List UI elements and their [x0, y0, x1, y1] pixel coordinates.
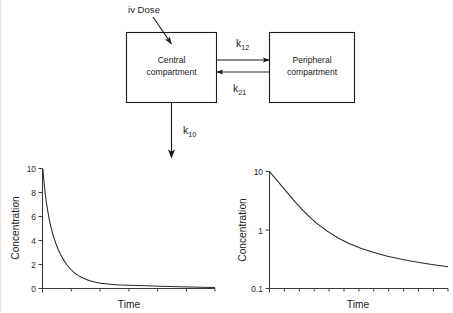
- k10-label: k10: [183, 124, 196, 139]
- linear-ytick-6: 6: [31, 212, 36, 222]
- linear-ytick-8: 8: [31, 188, 36, 198]
- semilog-plot-yticks: [266, 172, 270, 289]
- linear-plot-xlabel: Time: [118, 299, 141, 310]
- central-box-label-line2: compartment: [146, 67, 197, 77]
- figure-canvas: Central compartment Peripheral compartme…: [1, 0, 453, 313]
- linear-plot-curve: [43, 169, 215, 288]
- peripheral-box-label-line1: Peripheral: [292, 55, 331, 65]
- linear-ytick-4: 4: [31, 236, 36, 246]
- semilog-concentration-plot: 10 1 0.1 Time: [237, 167, 448, 310]
- peripheral-compartment-box: Peripheral compartment: [270, 33, 355, 103]
- k10-subscript: 10: [188, 130, 196, 139]
- k21-subscript: 21: [238, 88, 246, 97]
- central-compartment-box: Central compartment: [127, 33, 217, 103]
- linear-plot-ylabel: Concentration: [10, 196, 21, 259]
- semilog-plot-xlabel: Time: [347, 299, 370, 310]
- k21-label: k21: [233, 82, 246, 97]
- k12-label: k12: [236, 37, 249, 52]
- pharmacokinetic-figure: Central compartment Peripheral compartme…: [0, 0, 453, 313]
- semilog-plot-xticks: [270, 289, 449, 293]
- semilog-plot-curve: [270, 172, 448, 267]
- semilog-plot-ylabel: Concentration: [237, 198, 248, 261]
- iv-dose-label: iv Dose: [128, 4, 160, 15]
- linear-ytick-10: 10: [27, 164, 37, 174]
- linear-ytick-0: 0: [31, 284, 36, 294]
- linear-plot-yticks: [39, 169, 43, 289]
- k12-subscript: 12: [241, 43, 249, 52]
- linear-ytick-2: 2: [31, 260, 36, 270]
- semilog-ytick-0p1: 0.1: [251, 284, 263, 294]
- linear-concentration-plot: 10 8 6 4 2 0 Time Concentration: [10, 164, 215, 310]
- central-box-label-line1: Central: [158, 55, 186, 65]
- semilog-ytick-1: 1: [258, 226, 263, 236]
- peripheral-box-label-line2: compartment: [287, 67, 338, 77]
- semilog-ytick-10: 10: [254, 167, 264, 177]
- linear-plot-xticks: [43, 289, 216, 293]
